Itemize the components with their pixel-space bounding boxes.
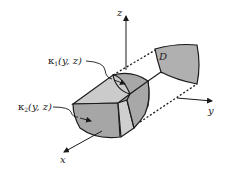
kappa1-args: (y, z) (58, 55, 82, 66)
connector-line (148, 72, 161, 81)
z-axis-label: z (116, 7, 123, 18)
kappa1-label: κ1(y, z) (48, 55, 82, 67)
svg-text:κ2(y, z): κ2(y, z) (18, 101, 52, 113)
kappa2-args: (y, z) (28, 101, 52, 112)
svg-text:κ1(y, z): κ1(y, z) (48, 55, 82, 67)
y-axis-label: y (207, 105, 214, 116)
region-d-label: D (158, 51, 167, 62)
solid-projection-diagram: z y x D κ1(y, z) κ2(y, z) (0, 0, 225, 172)
x-axis-label: x (60, 154, 66, 165)
solid-body (73, 73, 149, 137)
y-axis (177, 98, 212, 101)
x-axis (64, 131, 102, 152)
kappa2-label: κ2(y, z) (18, 101, 52, 113)
